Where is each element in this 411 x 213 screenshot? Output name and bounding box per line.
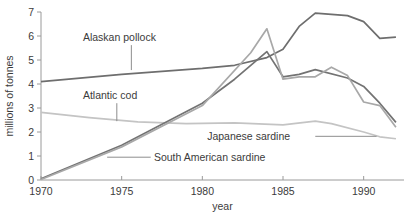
series-label-japanese-sardine: Japanese sardine: [207, 130, 290, 142]
y-tick-label: 2: [28, 126, 34, 138]
y-tick-label: 6: [28, 30, 34, 42]
x-tick-label: 1980: [191, 185, 215, 197]
y-tick-label: 3: [28, 102, 34, 114]
y-tick-label: 0: [28, 174, 34, 186]
x-axis-title: year: [212, 200, 233, 212]
x-tick-label: 1975: [110, 185, 134, 197]
y-tick-label: 7: [28, 6, 34, 18]
series-label-alaskan-pollock: Alaskan pollock: [83, 31, 157, 43]
x-tick-label: 1970: [29, 185, 53, 197]
series-label-atlantic-cod: Atlantic cod: [83, 89, 137, 101]
y-axis-title: millions of tonnes: [3, 55, 15, 136]
y-tick-label: 5: [28, 54, 34, 66]
fisheries-line-chart: 0123456719701975198019851990yearmillions…: [0, 0, 411, 213]
series-line-alaskan-pollock: [41, 13, 396, 81]
y-tick-label: 4: [28, 78, 34, 90]
y-tick-label: 1: [28, 150, 34, 162]
x-tick-label: 1985: [271, 185, 295, 197]
chart-canvas: 0123456719701975198019851990yearmillions…: [0, 0, 411, 213]
series-label-south-american-sardine: South American sardine: [154, 151, 266, 163]
x-tick-label: 1990: [352, 185, 376, 197]
